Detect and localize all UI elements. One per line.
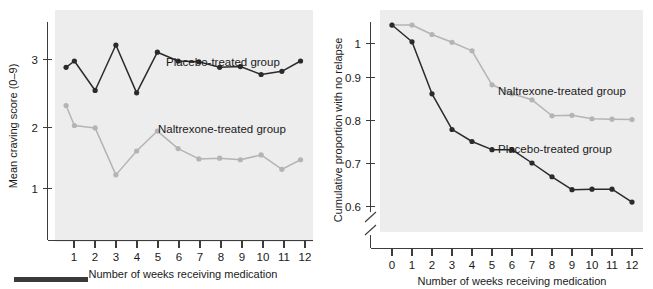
y-tick-label-1.0: 1 xyxy=(355,38,361,50)
data-point xyxy=(134,148,139,153)
y-axis-title: Cumulative proportion with no relapse xyxy=(332,38,344,223)
x-tick-label-8: 8 xyxy=(549,259,555,271)
x-axis-title: Number of weeks receiving medication xyxy=(89,268,278,280)
x-tick-label-9: 9 xyxy=(239,251,245,263)
data-point xyxy=(279,69,284,74)
x-tick-label-1: 1 xyxy=(71,251,77,263)
data-point xyxy=(549,113,554,118)
y-tick-label-3: 3 xyxy=(32,54,38,66)
data-point xyxy=(489,147,494,152)
cumulative-relapse-chart-svg: 1 0.9 0.8 0.7 0.6 Cumulative proportion … xyxy=(330,0,653,289)
x-tick-label-6: 6 xyxy=(509,259,515,271)
x-tick-label-9: 9 xyxy=(569,259,575,271)
x-tick-label-0: 0 xyxy=(389,259,395,271)
x-tick-label-2: 2 xyxy=(429,259,435,271)
data-point xyxy=(409,22,414,27)
x-tick-label-6: 6 xyxy=(176,251,182,263)
data-point xyxy=(279,167,284,172)
x-tick-label-4: 4 xyxy=(134,251,141,263)
x-tick-label-5: 5 xyxy=(155,251,161,263)
series-annotation-placebo: Placebo-treated group xyxy=(166,56,280,68)
plot-background xyxy=(380,10,643,232)
data-point xyxy=(155,50,160,55)
data-point xyxy=(529,97,534,102)
y-tick-label-2: 2 xyxy=(32,122,38,134)
x-tick-label-12: 12 xyxy=(299,251,312,263)
data-point xyxy=(429,91,434,96)
y-axis-break-icon xyxy=(365,212,376,235)
x-tick-label-10: 10 xyxy=(586,259,599,271)
data-point xyxy=(259,72,264,77)
x-axis-ticks xyxy=(392,248,632,256)
data-point xyxy=(238,157,243,162)
data-point xyxy=(389,22,394,27)
data-point xyxy=(409,39,414,44)
data-point xyxy=(113,172,118,177)
x-tick-label-11: 11 xyxy=(278,251,290,263)
data-point xyxy=(429,32,434,37)
data-point xyxy=(196,156,201,161)
data-point xyxy=(629,117,634,122)
data-point xyxy=(176,146,181,151)
series-annotation-placebo: Placebo-treated group xyxy=(498,143,612,155)
x-tick-label-10: 10 xyxy=(257,251,270,263)
data-point xyxy=(449,127,454,132)
series-annotation-naltrexone: Naltrexone-treated group xyxy=(158,123,286,135)
y-axis-title: Mean craving score (0–9) xyxy=(7,64,19,189)
cumulative-relapse-panel: 1 0.9 0.8 0.7 0.6 Cumulative proportion … xyxy=(330,0,653,289)
x-tick-label-5: 5 xyxy=(489,259,495,271)
figure-container: 3 2 1 Mean craving score (0–9) xyxy=(0,0,653,289)
data-point xyxy=(113,42,118,47)
x-tick-label-8: 8 xyxy=(218,251,224,263)
data-point xyxy=(298,58,303,63)
data-point xyxy=(298,157,303,162)
data-point xyxy=(93,88,98,93)
x-tick-label-7: 7 xyxy=(197,251,203,263)
data-point xyxy=(569,113,574,118)
y-tick-label-0.8: 0.8 xyxy=(345,115,361,127)
data-point xyxy=(629,200,634,205)
x-tick-label-3: 3 xyxy=(449,259,455,271)
craving-score-chart-svg: 3 2 1 Mean craving score (0–9) xyxy=(0,0,330,289)
data-point xyxy=(589,187,594,192)
x-tick-label-1: 1 xyxy=(409,259,415,271)
x-tick-label-3: 3 xyxy=(113,251,119,263)
craving-score-panel: 3 2 1 Mean craving score (0–9) xyxy=(0,0,330,289)
y-tick-label-0.7: 0.7 xyxy=(345,158,361,170)
x-tick-label-11: 11 xyxy=(606,259,618,271)
data-point xyxy=(72,123,77,128)
x-tick-label-4: 4 xyxy=(469,259,476,271)
data-point xyxy=(589,116,594,121)
data-point xyxy=(609,187,614,192)
y-tick-label-0.6: 0.6 xyxy=(345,201,361,213)
data-point xyxy=(469,139,474,144)
data-point xyxy=(569,187,574,192)
data-point xyxy=(259,152,264,157)
data-point xyxy=(63,65,68,70)
data-point xyxy=(72,58,77,63)
data-point xyxy=(609,117,614,122)
data-point xyxy=(449,40,454,45)
data-point xyxy=(93,125,98,130)
data-point xyxy=(217,156,222,161)
x-axis-title: Number of weeks receiving medication xyxy=(418,275,607,287)
x-tick-label-12: 12 xyxy=(626,259,639,271)
data-point xyxy=(63,103,68,108)
x-tick-label-7: 7 xyxy=(529,259,535,271)
x-tick-label-2: 2 xyxy=(92,251,98,263)
data-point xyxy=(549,174,554,179)
data-point xyxy=(489,82,494,87)
y-tick-label-1: 1 xyxy=(32,183,38,195)
y-tick-label-0.9: 0.9 xyxy=(345,72,361,84)
series-annotation-naltrexone: Naltrexone-treated group xyxy=(498,85,626,97)
data-point xyxy=(469,48,474,53)
data-point xyxy=(134,90,139,95)
data-point xyxy=(529,160,534,165)
